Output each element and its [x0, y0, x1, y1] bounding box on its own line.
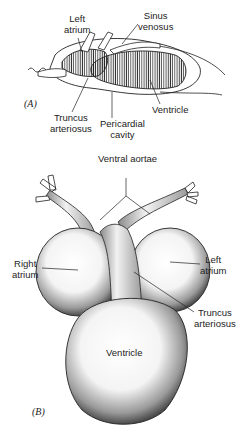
label-right-atrium: Right atrium	[12, 258, 38, 280]
label-ventral-aortae: Ventral aortae	[98, 153, 157, 164]
heart-diagram-drawing	[0, 0, 249, 438]
label-line: atrium	[200, 265, 226, 276]
label-left-atrium-b: Left atrium	[200, 254, 226, 276]
label-line: Left	[200, 254, 226, 265]
panel-tag-a: (A)	[24, 98, 37, 109]
label-sinus-venosus: Sinus venosus	[138, 10, 173, 32]
label-line: Sinus	[138, 10, 173, 21]
label-line: Truncus	[50, 112, 92, 123]
label-ventricle-a: Ventricle	[152, 104, 188, 115]
label-ventricle-b: Ventricle	[106, 347, 142, 358]
label-truncus-b: Truncus arteriosus	[194, 307, 236, 329]
label-line: venosus	[138, 21, 173, 32]
label-line: atrium	[12, 269, 38, 280]
label-line: arteriosus	[50, 123, 92, 134]
panel-tag-b: (B)	[32, 406, 45, 417]
label-truncus-a: Truncus arteriosus	[50, 112, 92, 134]
panel-b-drawing	[36, 175, 210, 424]
label-line: arteriosus	[194, 318, 236, 329]
label-line: Right	[12, 258, 38, 269]
label-line: cavity	[100, 129, 145, 140]
label-line: atrium	[64, 24, 90, 35]
panel-a-drawing	[28, 24, 225, 118]
label-line: Left	[64, 13, 90, 24]
label-line: Truncus	[194, 307, 236, 318]
label-pericardial-cavity: Pericardial cavity	[100, 118, 145, 140]
label-line: Pericardial	[100, 118, 145, 129]
label-left-atrium-a: Left atrium	[64, 13, 90, 35]
